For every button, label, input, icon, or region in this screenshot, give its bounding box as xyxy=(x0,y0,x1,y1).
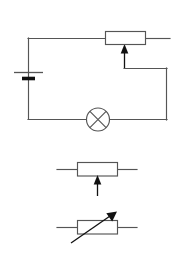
legend-variable-resistor-symbol xyxy=(57,212,137,244)
legend-var-body xyxy=(78,221,118,235)
circuit-diagram-canvas xyxy=(0,0,176,258)
legend-pot-body xyxy=(78,163,118,177)
circuit-diagram-svg xyxy=(0,0,176,258)
main-circuit-group xyxy=(14,32,170,132)
potentiometer-body xyxy=(106,32,146,45)
legend-potentiometer-symbol xyxy=(57,163,137,197)
wiper-arrow-icon xyxy=(121,44,129,54)
